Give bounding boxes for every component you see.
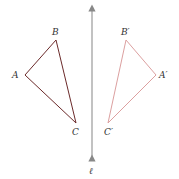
reflection-diagram: A B C B′ A′ C′ ℓ <box>0 0 179 179</box>
label-a-prime: A′ <box>158 70 168 80</box>
label-a: A <box>11 70 19 80</box>
label-c-prime: C′ <box>104 127 113 137</box>
label-c: C <box>72 127 79 137</box>
label-line: ℓ <box>89 166 93 176</box>
label-b: B <box>51 27 59 37</box>
triangle-abc-prime <box>108 40 156 123</box>
triangle-abc <box>25 40 76 123</box>
label-b-prime: B′ <box>120 27 130 37</box>
